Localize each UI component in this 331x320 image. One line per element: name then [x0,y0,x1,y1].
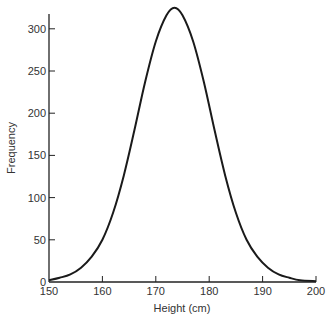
x-tick-label: 200 [307,285,325,297]
y-axis-label: Frequency [5,122,17,174]
y-axis-ticks: 050100150200250300 [28,23,55,288]
x-axis-label: Height (cm) [154,302,211,314]
y-tick-label: 100 [28,192,46,204]
distribution-curve [49,8,316,281]
x-tick-label: 190 [253,285,271,297]
x-tick-label: 170 [147,285,165,297]
x-axis-ticks: 150160170180190200 [40,276,325,297]
x-tick-label: 160 [93,285,111,297]
y-tick-label: 200 [28,107,46,119]
y-tick-label: 300 [28,23,46,35]
y-tick-label: 150 [28,149,46,161]
x-tick-label: 180 [200,285,218,297]
x-tick-label: 150 [40,285,58,297]
plot-area [49,8,316,281]
y-tick-label: 50 [34,234,46,246]
y-tick-label: 250 [28,65,46,77]
frequency-chart: 050100150200250300 150160170180190200 He… [0,0,331,320]
